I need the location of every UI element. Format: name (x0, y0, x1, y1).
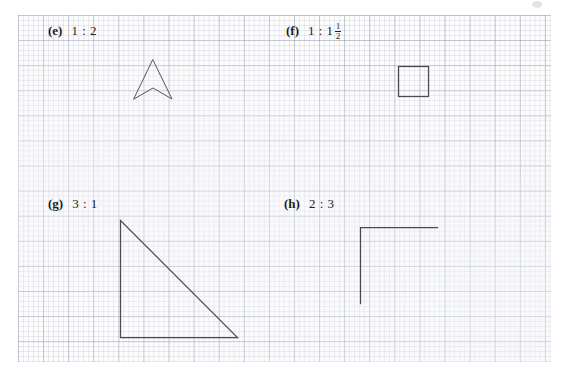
item-tag-h: (h) (284, 196, 300, 211)
scan-margin-right (551, 0, 566, 379)
item-tag-f: (f) (286, 23, 299, 38)
item-ratio-g: 3 : 1 (72, 196, 98, 211)
fraction-denominator: 2 (335, 31, 342, 41)
scan-margin-top (0, 0, 566, 15)
item-label-f: (f)1 : 112 (286, 22, 341, 41)
fraction-numerator: 1 (335, 22, 342, 31)
scan-artifact-speck (532, 1, 542, 8)
item-label-h: (h)2 : 3 (284, 197, 335, 210)
scan-margin-left (0, 0, 18, 379)
scan-margin-bottom (0, 362, 566, 379)
item-tag-g: (g) (48, 196, 63, 211)
item-label-e: (e)1 : 2 (48, 24, 97, 37)
item-ratio-h: 2 : 3 (309, 196, 335, 211)
graph-paper-background (18, 15, 551, 362)
mixed-fraction-half: 12 (335, 22, 342, 41)
item-label-g: (g)3 : 1 (48, 197, 98, 210)
item-ratio-f-prefix: 1 : 1 (308, 23, 334, 38)
worksheet-page: (e)1 : 2 (f)1 : 112 (g)3 : 1 (h)2 : 3 (0, 0, 566, 379)
item-ratio-e: 1 : 2 (71, 23, 97, 38)
item-tag-e: (e) (48, 23, 62, 38)
